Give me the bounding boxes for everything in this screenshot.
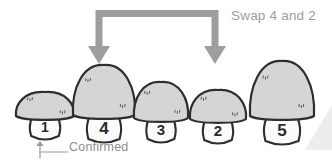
swap-bracket-stem xyxy=(96,10,219,47)
swap-arrowhead-left xyxy=(88,46,110,64)
mushroom-4-number: 4 xyxy=(99,119,109,138)
mushroom-5[interactable]: 5 xyxy=(250,61,314,145)
confirmed-pointer xyxy=(36,141,68,158)
illustration-stage: 14325 xyxy=(0,0,332,163)
swap-bracket-arrow xyxy=(88,10,226,64)
mushroom-2-cap xyxy=(190,90,246,123)
swap-label: Swap 4 and 2 xyxy=(231,8,316,23)
mushroom-1-number: 1 xyxy=(41,119,49,135)
mushroom-1-cap xyxy=(16,92,74,120)
swap-arrowhead-right xyxy=(204,46,226,64)
mushroom-2-number: 2 xyxy=(214,122,222,139)
mushroom-row: 14325 xyxy=(16,61,314,145)
mushroom-3[interactable]: 3 xyxy=(134,82,188,143)
mushroom-3-cap xyxy=(134,82,188,122)
mushroom-sort-scene: 14325 xyxy=(0,0,332,163)
mushroom-5-number: 5 xyxy=(277,121,286,140)
mushroom-4-cap xyxy=(73,65,135,119)
mushroom-4[interactable]: 4 xyxy=(73,65,135,143)
confirmed-label: Confirmed xyxy=(69,140,128,154)
mushroom-3-number: 3 xyxy=(157,121,165,138)
mushroom-2[interactable]: 2 xyxy=(190,90,246,144)
confirmed-arrowhead xyxy=(36,141,43,146)
mushroom-5-cap xyxy=(250,61,314,120)
mushroom-1[interactable]: 1 xyxy=(16,92,74,140)
